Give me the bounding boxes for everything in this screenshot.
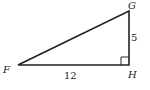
triangle-fgh <box>18 11 129 65</box>
side-length-fh: 12 <box>64 70 77 81</box>
triangle-diagram: G F H 5 12 <box>0 0 150 90</box>
vertex-label-g: G <box>128 0 136 11</box>
vertex-label-f: F <box>2 64 11 75</box>
vertex-label-h: H <box>127 69 137 80</box>
right-angle-marker <box>121 57 129 65</box>
side-length-gh: 5 <box>131 32 137 43</box>
